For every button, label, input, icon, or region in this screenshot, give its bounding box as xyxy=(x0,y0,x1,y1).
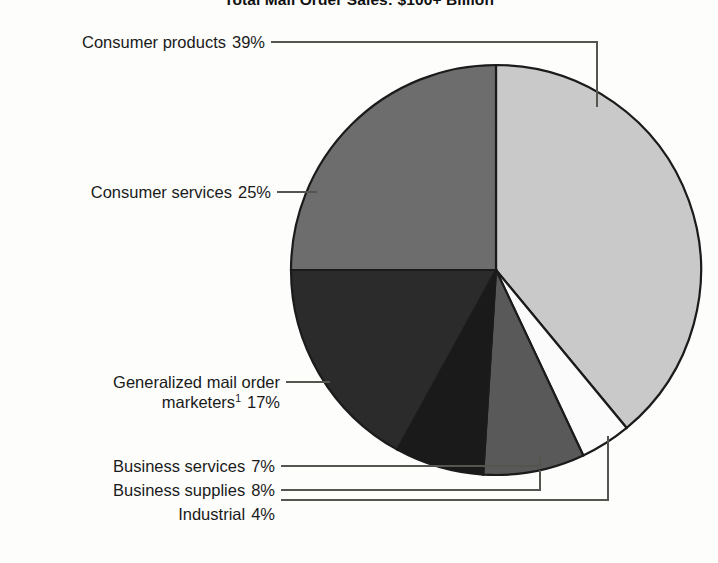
footnote-marker-1: 1 xyxy=(235,392,241,404)
pie-slices xyxy=(291,65,701,475)
label-generalized-line2: marketers117% xyxy=(10,392,280,412)
label-industrial-text: Industrial4% xyxy=(10,504,275,524)
pie-chart-graphic xyxy=(0,0,718,563)
label-consumer-services-percent: 25% xyxy=(238,183,271,201)
label-industrial-percent: 4% xyxy=(251,505,275,523)
label-consumer-services-text: Consumer services25% xyxy=(10,182,271,202)
label-consumer-products-percent: 39% xyxy=(232,33,265,51)
label-business-services-percent: 7% xyxy=(251,457,275,475)
label-generalized-line1: Generalized mail order xyxy=(10,372,280,392)
label-business-services-text: Business services7% xyxy=(10,456,275,476)
label-business-services: Business services7% xyxy=(10,456,275,476)
label-consumer-products-text: Consumer products39% xyxy=(10,32,265,52)
label-business-supplies-text: Business supplies8% xyxy=(10,480,275,500)
label-industrial: Industrial4% xyxy=(10,504,275,524)
label-business-supplies: Business supplies8% xyxy=(10,480,275,500)
label-consumer-products: Consumer products39% xyxy=(10,32,265,52)
label-generalized-mail-order-marketers: Generalized mail order marketers117% xyxy=(10,372,280,412)
label-consumer-services: Consumer services25% xyxy=(10,182,271,202)
pie-chart-figure: Total Mail Order Sales: $100+ Billion Co… xyxy=(0,0,718,563)
pie-slice-consumer-services[interactable] xyxy=(291,65,496,270)
label-business-supplies-percent: 8% xyxy=(251,481,275,499)
label-generalized-percent: 17% xyxy=(247,393,280,411)
